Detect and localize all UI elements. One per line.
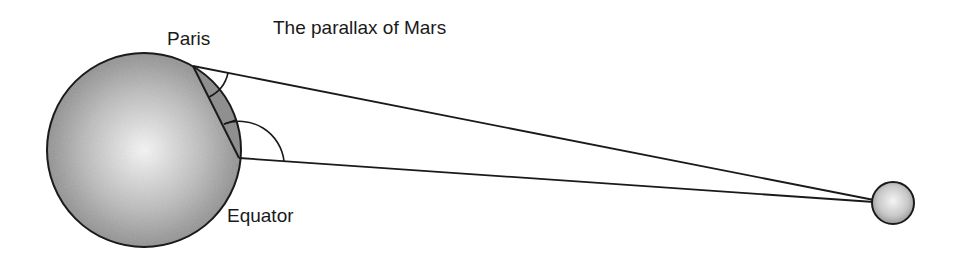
earth	[47, 53, 241, 247]
mars	[872, 182, 914, 224]
diagram-title: The parallax of Mars	[273, 17, 446, 38]
parallax-diagram: The parallax of Mars Paris Equator	[0, 0, 957, 266]
label-equator: Equator	[227, 205, 294, 226]
sightline-equator	[239, 158, 874, 202]
sightline-paris	[193, 66, 874, 200]
label-paris: Paris	[167, 28, 210, 49]
